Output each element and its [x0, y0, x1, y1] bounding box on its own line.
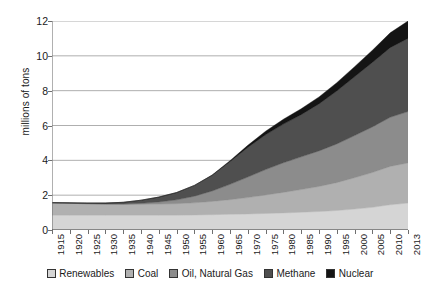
x-tick-mark: [408, 230, 409, 234]
legend-swatch-icon: [326, 269, 335, 278]
x-tick-label: 1940: [145, 234, 155, 255]
chart-legend: RenewablesCoalOil, Natural GasMethaneNuc…: [0, 268, 420, 279]
x-tick-mark: [88, 230, 89, 234]
x-tick-label: 1915: [56, 234, 66, 255]
x-tick-mark: [266, 230, 267, 234]
x-tick-label: 1960: [216, 234, 226, 255]
legend-label: Renewables: [59, 268, 114, 279]
y-tick-mark: [48, 91, 52, 92]
legend-item[interactable]: Nuclear: [326, 268, 373, 279]
x-tick-mark: [372, 230, 373, 234]
x-tick-mark: [159, 230, 160, 234]
y-tick-label: 6: [22, 120, 48, 131]
x-tick-label: 1935: [127, 234, 137, 255]
legend-swatch-icon: [125, 269, 134, 278]
y-tick-label: 8: [22, 85, 48, 96]
legend-item[interactable]: Oil, Natural Gas: [169, 268, 253, 279]
x-tick-mark: [194, 230, 195, 234]
legend-label: Coal: [138, 268, 159, 279]
x-tick-label: 2000: [359, 234, 369, 255]
x-tick-mark: [301, 230, 302, 234]
y-tick-mark: [48, 56, 52, 57]
legend-label: Methane: [276, 268, 315, 279]
x-tick-label: 1945: [163, 234, 173, 255]
x-tick-label: 1985: [305, 234, 315, 255]
x-tick-label: 1975: [270, 234, 280, 255]
area-series-group: [52, 21, 408, 230]
y-tick-mark: [48, 160, 52, 161]
x-tick-label: 2010: [394, 234, 404, 255]
y-tick-label: 0: [22, 225, 48, 236]
x-tick-mark: [283, 230, 284, 234]
x-tick-label: 1925: [92, 234, 102, 255]
y-axis-ticks: 024681012: [18, 0, 48, 291]
x-tick-mark: [177, 230, 178, 234]
x-tick-mark: [355, 230, 356, 234]
x-tick-mark: [337, 230, 338, 234]
x-tick-label: 1950: [181, 234, 191, 255]
legend-item[interactable]: Methane: [264, 268, 315, 279]
plot-area: [52, 21, 408, 230]
legend-item[interactable]: Coal: [125, 268, 158, 279]
legend-swatch-icon: [47, 269, 56, 278]
x-tick-mark: [319, 230, 320, 234]
x-tick-label: 1965: [234, 234, 244, 255]
x-tick-label: 1930: [109, 234, 119, 255]
legend-swatch-icon: [264, 269, 273, 278]
legend-item[interactable]: Renewables: [47, 268, 115, 279]
x-tick-label: 1955: [198, 234, 208, 255]
x-tick-label: 1980: [287, 234, 297, 255]
legend-label: Nuclear: [339, 268, 373, 279]
x-tick-label: 1995: [341, 234, 351, 255]
y-tick-mark: [48, 21, 52, 22]
x-tick-label: 1970: [252, 234, 262, 255]
x-tick-label: 2005: [376, 234, 386, 255]
x-tick-mark: [123, 230, 124, 234]
x-tick-label: 1920: [74, 234, 84, 255]
x-tick-mark: [52, 230, 53, 234]
legend-swatch-icon: [169, 269, 178, 278]
y-tick-label: 2: [22, 190, 48, 201]
y-tick-mark: [48, 126, 52, 127]
y-tick-label: 4: [22, 155, 48, 166]
y-tick-label: 12: [22, 16, 48, 27]
x-tick-label: 1990: [323, 234, 333, 255]
x-tick-mark: [105, 230, 106, 234]
y-tick-mark: [48, 195, 52, 196]
x-tick-mark: [141, 230, 142, 234]
x-tick-mark: [70, 230, 71, 234]
x-tick-mark: [248, 230, 249, 234]
x-tick-mark: [230, 230, 231, 234]
y-tick-label: 10: [22, 51, 48, 62]
x-tick-mark: [390, 230, 391, 234]
x-tick-mark: [212, 230, 213, 234]
legend-label: Oil, Natural Gas: [182, 268, 253, 279]
x-tick-label: 2013: [412, 234, 422, 255]
